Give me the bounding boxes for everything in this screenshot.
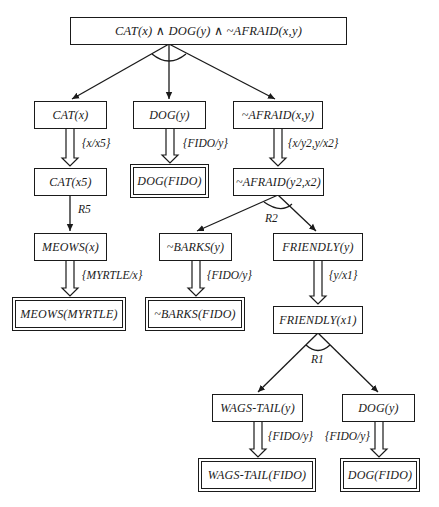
node-label: MEOWS(x)	[42, 240, 99, 255]
node-afraid-xy: ~AFRAID(x,y)	[233, 101, 323, 129]
subst-myrtle-x: {MYRTLE/x}	[82, 269, 142, 281]
subst-x-y2-y-x2: {x/y2,y/x2}	[288, 137, 338, 149]
node-label: DOG(y)	[358, 401, 399, 416]
subst-fido-y-2: {FIDO/y}	[207, 269, 252, 281]
rule-r1: R1	[311, 353, 324, 365]
node-label: MEOWS(MYRTLE)	[20, 307, 117, 322]
node-cat-x5: CAT(x5)	[34, 168, 107, 196]
and-arc-r1	[306, 345, 330, 351]
node-friendly-x1: FRIENDLY(x1)	[273, 306, 363, 334]
node-cat-x: CAT(x)	[34, 101, 107, 129]
node-dog-y: DOG(y)	[133, 101, 206, 129]
node-label: CAT(x5)	[49, 175, 91, 190]
subst-fido-y-1: {FIDO/y}	[183, 137, 228, 149]
node-wagstail-y: WAGS-TAIL(y)	[212, 394, 303, 422]
subst-fido-y-3: {FIDO/y}	[268, 430, 313, 442]
node-label: DOG(FIDO)	[137, 174, 201, 189]
node-label: WAGS-TAIL(FIDO)	[208, 468, 307, 483]
subst-x-x5: {x/x5}	[82, 137, 110, 149]
rule-r2: R2	[265, 212, 278, 224]
node-label: ~AFRAID(y2,x2)	[236, 175, 321, 190]
edge-root-cat	[72, 44, 169, 99]
subst-fido-y-4: {FIDO/y}	[325, 430, 370, 442]
node-label: ~BARKS(FIDO)	[154, 307, 236, 322]
goal-node-dog-fido: DOG(FIDO)	[130, 164, 209, 198]
node-barks-y: ~BARKS(y)	[159, 233, 232, 261]
node-friendly-y: FRIENDLY(y)	[273, 233, 363, 261]
root-goal-node: CAT(x) ∧ DOG(y) ∧ ~AFRAID(x,y)	[70, 17, 347, 45]
goal-node-meows-myrtle: MEOWS(MYRTLE)	[12, 297, 126, 331]
goal-inner-box: DOG(FIDO)	[343, 461, 417, 489]
edge-root-afraid	[169, 44, 275, 99]
edge-r1-wagstail	[258, 333, 318, 392]
goal-inner-box: WAGS-TAIL(FIDO)	[201, 461, 313, 489]
node-label: WAGS-TAIL(y)	[220, 401, 295, 416]
rule-r5: R5	[78, 203, 91, 215]
node-label: FRIENDLY(x1)	[279, 313, 356, 328]
node-label: DOG(y)	[149, 108, 190, 123]
node-label: ~AFRAID(x,y)	[242, 108, 315, 123]
node-label: DOG(FIDO)	[348, 468, 412, 483]
and-or-proof-tree: CAT(x) ∧ DOG(y) ∧ ~AFRAID(x,y) CAT(x) DO…	[0, 0, 439, 507]
and-arc-r2	[264, 202, 292, 209]
node-label: ~BARKS(y)	[167, 240, 225, 255]
goal-node-wagstail-fido: WAGS-TAIL(FIDO)	[198, 458, 316, 492]
subst-y-x1: {y/x1}	[329, 269, 357, 281]
goal-inner-box: MEOWS(MYRTLE)	[15, 300, 123, 328]
goal-inner-box: DOG(FIDO)	[133, 167, 206, 195]
goal-inner-box: ~BARKS(FIDO)	[148, 300, 242, 328]
edge-r2-friendly	[278, 195, 316, 231]
node-label: CAT(x)	[52, 108, 88, 123]
goal-node-dog-fido-2: DOG(FIDO)	[340, 458, 420, 492]
node-afraid-y2x2: ~AFRAID(y2,x2)	[233, 168, 324, 196]
node-label: FRIENDLY(y)	[282, 240, 353, 255]
root-goal-label: CAT(x) ∧ DOG(y) ∧ ~AFRAID(x,y)	[115, 23, 302, 39]
goal-node-barks-fido: ~BARKS(FIDO)	[145, 297, 245, 331]
edge-r1-dog	[318, 333, 378, 392]
node-dog-y-2: DOG(y)	[342, 394, 415, 422]
node-meows-x: MEOWS(x)	[34, 233, 107, 261]
